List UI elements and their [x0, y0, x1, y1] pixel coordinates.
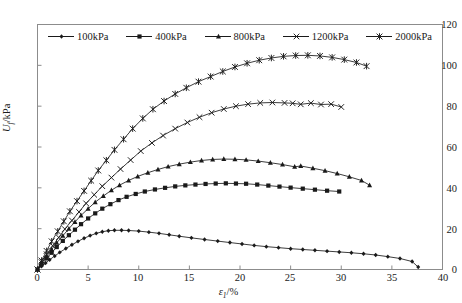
x-tick-label: 30: [321, 273, 361, 283]
data-point: [55, 228, 61, 235]
data-point: [88, 233, 92, 237]
x-tick-label: 5: [68, 273, 108, 283]
data-point: [367, 182, 372, 187]
data-point: [163, 186, 167, 190]
legend-item-2000kpa[interactable]: 2000kPa: [366, 31, 432, 42]
data-point: [91, 192, 97, 198]
data-point: [130, 125, 136, 132]
data-point: [128, 157, 134, 163]
legend-label: 800kPa: [233, 31, 266, 42]
data-point: [197, 114, 203, 120]
data-point: [220, 68, 226, 75]
data-point: [150, 106, 156, 113]
y-tick-label: 100: [427, 61, 457, 71]
data-point: [103, 157, 109, 164]
data-point: [67, 233, 71, 237]
data-point: [109, 175, 115, 181]
data-point: [81, 188, 87, 195]
data-point: [293, 33, 299, 39]
data-point: [374, 253, 378, 257]
data-point: [325, 249, 329, 253]
data-point: [221, 106, 227, 112]
data-point: [100, 207, 104, 211]
data-point: [73, 228, 77, 232]
data-point: [172, 91, 178, 98]
data-point: [76, 239, 80, 243]
data-point: [289, 246, 293, 250]
data-point: [277, 185, 281, 189]
data-point: [298, 163, 303, 168]
data-point: [301, 247, 305, 251]
data-point: [74, 198, 80, 205]
data-point: [118, 166, 124, 172]
data-point: [109, 188, 114, 193]
data-point: [266, 183, 270, 187]
x-tick-label: 35: [372, 273, 412, 283]
y-axis-title-unit: /kPa: [1, 104, 12, 123]
data-point: [125, 195, 129, 199]
data-point: [177, 234, 181, 238]
data-point: [64, 246, 68, 250]
legend-item-1200kpa[interactable]: 1200kPa: [283, 31, 349, 42]
data-point: [160, 133, 166, 139]
data-point: [147, 230, 151, 234]
data-point: [216, 33, 221, 38]
data-point: [244, 60, 250, 67]
data-point: [94, 231, 98, 235]
legend-triangle-icon: [205, 32, 231, 41]
data-point: [157, 231, 161, 235]
data-point: [183, 183, 187, 187]
data-point: [137, 229, 141, 233]
data-point: [252, 243, 256, 247]
data-point: [101, 193, 106, 198]
series-line: [38, 183, 340, 269]
data-point: [117, 182, 122, 187]
data-point: [121, 136, 127, 143]
x-tick-label: 20: [220, 273, 260, 283]
legend-x-cross-icon: [283, 32, 309, 41]
data-point: [203, 182, 207, 186]
data-point: [398, 256, 402, 260]
data-point: [337, 250, 341, 254]
x-tick-label: 10: [118, 273, 158, 283]
data-point: [325, 189, 329, 193]
data-point: [173, 184, 177, 188]
data-point: [49, 238, 55, 245]
data-point: [364, 63, 370, 70]
data-point: [244, 182, 248, 186]
data-point: [183, 84, 189, 91]
data-point: [276, 245, 280, 249]
data-point: [88, 177, 94, 184]
data-point: [255, 182, 259, 186]
series-line: [38, 159, 370, 269]
data-point: [93, 211, 97, 215]
data-point: [67, 208, 73, 215]
x-tick-label: 15: [169, 273, 209, 283]
data-point: [167, 233, 171, 237]
data-point: [149, 140, 155, 146]
data-point: [134, 192, 138, 196]
y-tick-label: 60: [427, 143, 457, 153]
data-point: [106, 229, 110, 233]
legend-square-icon: [126, 32, 152, 41]
data-point: [161, 98, 167, 105]
legend-item-400kpa[interactable]: 400kPa: [126, 31, 187, 42]
data-point: [69, 218, 75, 224]
data-point: [386, 254, 390, 258]
data-point: [232, 64, 238, 71]
data-point: [313, 248, 317, 252]
data-point: [82, 236, 86, 240]
data-point: [61, 218, 67, 225]
data-point: [138, 34, 142, 38]
data-point: [83, 201, 89, 207]
data-point: [70, 243, 74, 247]
data-point: [120, 228, 124, 232]
data-point: [216, 239, 220, 243]
legend-item-100kpa[interactable]: 100kPa: [48, 31, 109, 42]
data-point: [193, 182, 197, 186]
data-point: [95, 167, 101, 174]
legend-item-800kpa[interactable]: 800kPa: [205, 31, 266, 42]
data-point: [185, 120, 191, 126]
data-point: [112, 147, 118, 154]
